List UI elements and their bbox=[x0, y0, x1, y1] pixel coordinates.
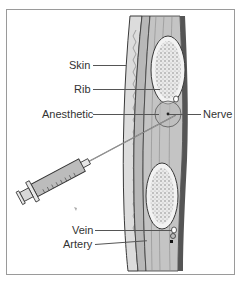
vein-icon bbox=[172, 227, 177, 233]
leader-rib bbox=[93, 89, 160, 90]
label-vein: Vein bbox=[72, 224, 93, 236]
label-skin: Skin bbox=[69, 59, 90, 71]
nerve-dot-icon bbox=[170, 240, 173, 243]
leader-vein bbox=[95, 230, 172, 231]
leader-skin bbox=[93, 65, 126, 66]
leader-nerve bbox=[169, 114, 201, 115]
upper-rib bbox=[151, 36, 185, 104]
label-nerve: Nerve bbox=[203, 108, 232, 120]
label-anesthetic: Anesthetic bbox=[42, 108, 93, 120]
label-rib: Rib bbox=[74, 83, 91, 95]
artery-icon bbox=[171, 234, 176, 239]
leader-anesthetic bbox=[93, 114, 159, 115]
label-artery: Artery bbox=[63, 238, 92, 250]
